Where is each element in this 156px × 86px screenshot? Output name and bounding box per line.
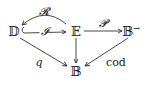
label-I: 𝓘 xyxy=(40,26,49,37)
label-R: 𝓡 xyxy=(39,6,49,17)
node-B-arrow-superscript: → xyxy=(133,24,140,33)
node-E: 𝔼 xyxy=(71,25,81,38)
node-D: 𝔻 xyxy=(8,25,19,38)
node-B-arrow-label: 𝔹 xyxy=(122,24,133,39)
label-P: 𝓟 xyxy=(99,18,107,29)
node-B-arrow: 𝔹→ xyxy=(122,25,140,38)
label-cod: cod xyxy=(106,57,126,68)
arrow-q xyxy=(20,38,67,66)
node-B: 𝔹 xyxy=(71,65,82,78)
label-q: q xyxy=(35,57,42,68)
